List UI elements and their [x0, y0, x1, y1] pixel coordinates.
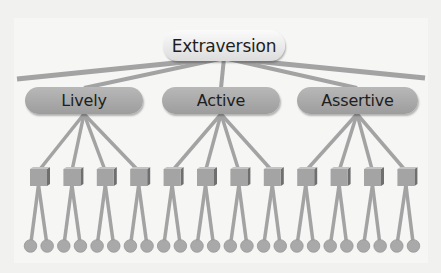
connector-line — [164, 185, 172, 246]
connector-line — [397, 185, 406, 246]
behavior-node — [107, 240, 120, 253]
connector-line — [197, 185, 206, 246]
connector-line — [97, 185, 105, 246]
habit-node — [97, 167, 117, 186]
behavior-node — [341, 240, 354, 253]
habit-node — [164, 167, 184, 186]
facet-node-assertive: Assertive — [297, 87, 418, 114]
behavior-node — [24, 240, 37, 253]
connector-line — [373, 185, 381, 246]
behavior-node — [174, 240, 187, 253]
root-label: Extraversion — [172, 36, 277, 56]
connector-line — [172, 185, 180, 246]
connector-line — [17, 58, 224, 79]
habit-node — [197, 167, 217, 186]
habit-node — [30, 167, 50, 186]
behavior-node — [124, 240, 137, 253]
behavior-node — [407, 240, 420, 253]
behavior-node — [257, 240, 270, 253]
behavior-node — [324, 240, 337, 253]
behavior-node — [241, 240, 254, 253]
connector-line — [272, 185, 280, 246]
connector-line — [364, 185, 373, 246]
facet-label: Active — [197, 91, 245, 110]
habit-node — [130, 167, 150, 186]
root-node-extraversion: Extraversion — [163, 30, 285, 61]
connector-line — [139, 185, 147, 246]
connector-line — [306, 185, 314, 246]
connector-line — [239, 185, 247, 246]
behavior-node — [274, 240, 287, 253]
behavior-node — [224, 240, 237, 253]
connector-line — [406, 185, 414, 246]
facet-label: Lively — [61, 91, 106, 110]
habit-node — [297, 167, 317, 186]
behavior-node — [141, 240, 154, 253]
behavior-node — [291, 240, 304, 253]
connector-line — [130, 185, 138, 246]
behavior-node — [357, 240, 370, 253]
connector-line — [84, 114, 105, 171]
behavior-node — [58, 240, 71, 253]
connector-line — [339, 185, 347, 246]
connector-line — [84, 58, 224, 88]
behavior-node — [374, 240, 387, 253]
connector-line — [297, 185, 306, 246]
habit-node — [397, 167, 417, 186]
connector-line — [105, 185, 113, 246]
behavior-node — [41, 240, 54, 253]
facet-label: Assertive — [321, 91, 393, 110]
behavior-node — [191, 240, 204, 253]
connector-line — [206, 185, 214, 246]
habit-node — [264, 167, 284, 186]
habit-node — [331, 167, 351, 186]
habit-node — [230, 167, 250, 186]
connector-line — [72, 185, 81, 246]
behavior-node — [74, 240, 87, 253]
connector-line — [31, 185, 39, 246]
habit-node — [63, 167, 83, 186]
behavior-node — [157, 240, 170, 253]
connector-line — [330, 185, 339, 246]
connector-line — [39, 185, 48, 246]
behavior-node — [207, 240, 220, 253]
connector-line — [64, 185, 72, 246]
facet-node-lively: Lively — [25, 87, 143, 114]
connector-line — [221, 58, 224, 88]
connector-line — [224, 58, 425, 78]
habit-node — [364, 167, 384, 186]
connector-line — [230, 185, 239, 246]
behavior-node — [391, 240, 404, 253]
behavior-node — [91, 240, 104, 253]
connector-line — [264, 185, 273, 246]
facet-node-active: Active — [162, 87, 280, 114]
connector-line — [84, 114, 139, 171]
behavior-node — [307, 240, 320, 253]
